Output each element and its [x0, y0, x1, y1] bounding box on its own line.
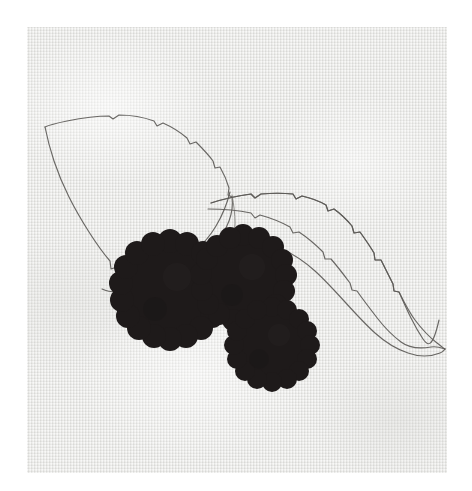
artwork-canvas: [0, 0, 472, 491]
sprig-svg: [27, 27, 447, 473]
linen-fabric-panel: [27, 27, 447, 473]
blackberry-sprig-drawing: [27, 27, 447, 473]
